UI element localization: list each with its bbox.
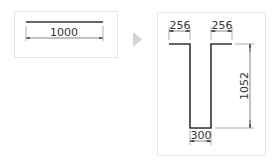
bottom-width-dimension: 300 [190, 129, 212, 145]
bottom-width-label: 300 [191, 129, 212, 142]
left-flange-label: 256 [170, 19, 191, 32]
depth-label: 1052 [238, 72, 251, 100]
length-label: 1000 [50, 26, 78, 39]
right-flange-dimension: 256 [211, 19, 233, 40]
right-flange-label: 256 [212, 19, 233, 32]
left-flange-dimension: 256 [169, 19, 191, 40]
depth-dimension: 1052 [215, 44, 254, 128]
bent-profile [169, 44, 232, 128]
diagram-canvas: 1000 256 256 1052 300 [0, 0, 277, 164]
length-dimension: 1000 [26, 26, 103, 41]
play-triangle-icon [133, 32, 142, 47]
